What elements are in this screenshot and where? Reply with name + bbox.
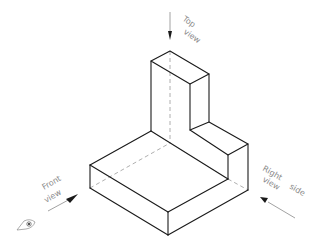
- right-side-view-indicator: Right view side: [260, 164, 307, 218]
- visible-edges: [90, 51, 248, 235]
- isometric-drawing: Top view Front view Right view side: [0, 0, 315, 244]
- arrow-right-side-icon: [268, 202, 295, 218]
- top-view-label-line2: view: [182, 27, 203, 45]
- front-view-label-line1: Front: [41, 174, 63, 192]
- right-view-label-extra: side: [288, 182, 307, 198]
- top-view-indicator: Top view: [168, 12, 202, 45]
- front-view-indicator: Front view: [41, 174, 79, 211]
- eye-icon: [17, 220, 35, 230]
- top-view-label-line1: Top: [180, 14, 197, 30]
